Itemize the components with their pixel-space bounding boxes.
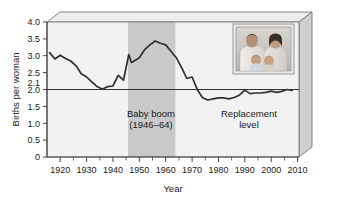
fertility-rate-chart-figure: 0 0.5 1.0 1.5 2.0 2.1 2.5 3.0 3.5 4.0 xyxy=(0,0,341,204)
chart-svg: 0 0.5 1.0 1.5 2.0 2.1 2.5 3.0 3.5 4.0 xyxy=(0,0,341,204)
chart-3d-top-panel xyxy=(47,12,312,22)
x-tick-label-1960: 1960 xyxy=(156,165,176,175)
y-axis-title: Births per woman xyxy=(10,53,21,127)
y-tick-label-0: 0 xyxy=(35,152,40,162)
baby-boom-annotation: Baby boom (1946–64) xyxy=(127,108,175,130)
y-tick-label-2-1: 2.1 xyxy=(27,78,40,88)
y-tick-label-0-5: 0.5 xyxy=(27,135,40,145)
y-axis-tick-labels: 0 0.5 1.0 1.5 2.0 2.1 2.5 3.0 3.5 4.0 xyxy=(27,17,40,162)
x-tick-label-2000: 2000 xyxy=(261,165,281,175)
y-tick-label-4-0: 4.0 xyxy=(27,17,40,27)
y-tick-label-1-0: 1.0 xyxy=(27,119,40,129)
x-tick-label-2010: 2010 xyxy=(288,165,308,175)
x-tick-label-1950: 1950 xyxy=(129,165,149,175)
x-tick-label-1940: 1940 xyxy=(103,165,123,175)
replacement-level-label-line2: level xyxy=(239,119,259,130)
y-tick-label-1-5: 1.5 xyxy=(27,102,40,112)
baby-boom-label-line1: Baby boom xyxy=(127,108,175,119)
x-tick-label-1980: 1980 xyxy=(208,165,228,175)
y-tick-label-3-0: 3.0 xyxy=(27,51,40,61)
y-tick-label-3-5: 3.5 xyxy=(27,34,40,44)
x-tick-label-1930: 1930 xyxy=(77,165,97,175)
x-axis-title: Year xyxy=(163,183,182,194)
x-tick-label-1990: 1990 xyxy=(235,165,255,175)
family-photo-inset xyxy=(233,24,294,74)
x-tick-label-1920: 1920 xyxy=(50,165,70,175)
x-tick-label-1970: 1970 xyxy=(182,165,202,175)
chart-3d-right-panel xyxy=(299,12,312,157)
baby-boom-label-line2: (1946–64) xyxy=(129,119,172,130)
y-tick-label-2-5: 2.5 xyxy=(27,68,40,78)
replacement-level-label-line1: Replacement xyxy=(221,108,277,119)
